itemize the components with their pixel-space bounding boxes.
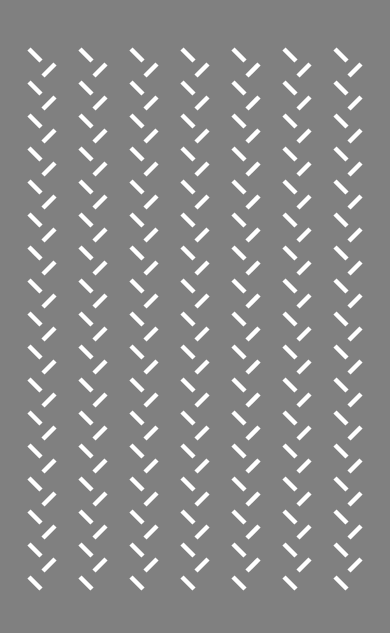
zigzag-dash-pattern <box>0 0 390 633</box>
background <box>0 0 390 633</box>
